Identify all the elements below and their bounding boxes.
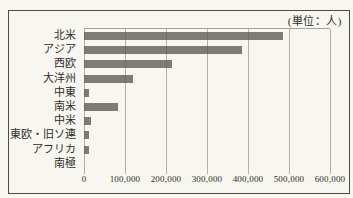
unit-label: (単位：人) <box>288 12 342 28</box>
bar <box>84 103 118 111</box>
bar-row <box>84 100 330 114</box>
category-label: 中東 <box>0 85 80 99</box>
x-tick-label: 400,000 <box>233 174 264 184</box>
x-tick-label: 600,000 <box>315 174 346 184</box>
chart-canvas: (単位：人) 北米アジア西欧大洋州中東南米中米東欧・旧ソ連アフリカ南極 0100… <box>0 0 353 198</box>
bar-row <box>84 157 330 171</box>
category-label: 南米 <box>0 99 80 113</box>
category-label: 大洋州 <box>0 71 80 85</box>
bar-row <box>84 57 330 71</box>
category-label: 中米 <box>0 113 80 127</box>
bar <box>84 32 283 40</box>
x-tick-label: 300,000 <box>192 174 223 184</box>
bar <box>84 117 91 125</box>
bar <box>84 89 89 97</box>
x-tick-label: 500,000 <box>274 174 305 184</box>
bar-rows <box>84 29 330 171</box>
category-label: アジア <box>0 42 80 56</box>
bar-row <box>84 143 330 157</box>
category-label: 西欧 <box>0 56 80 70</box>
bar <box>84 60 172 68</box>
category-labels: 北米アジア西欧大洋州中東南米中米東欧・旧ソ連アフリカ南極 <box>0 28 80 170</box>
x-axis: 0100,000200,000300,000400,000500,000600,… <box>84 174 330 187</box>
category-label: 北米 <box>0 28 80 42</box>
category-label: 東欧・旧ソ連 <box>0 127 80 141</box>
x-tick-label: 100,000 <box>110 174 141 184</box>
bar-row <box>84 86 330 100</box>
bar-row <box>84 29 330 43</box>
bar <box>84 46 242 54</box>
bar-row <box>84 43 330 57</box>
bar <box>84 131 89 139</box>
bar-row <box>84 128 330 142</box>
bar-row <box>84 72 330 86</box>
x-tick-label: 200,000 <box>151 174 182 184</box>
category-label: アフリカ <box>0 142 80 156</box>
plot-area <box>84 28 330 170</box>
bar <box>84 146 89 154</box>
bar-row <box>84 114 330 128</box>
bar <box>84 75 133 83</box>
x-tick-label: 0 <box>82 174 87 184</box>
category-label: 南極 <box>0 156 80 170</box>
